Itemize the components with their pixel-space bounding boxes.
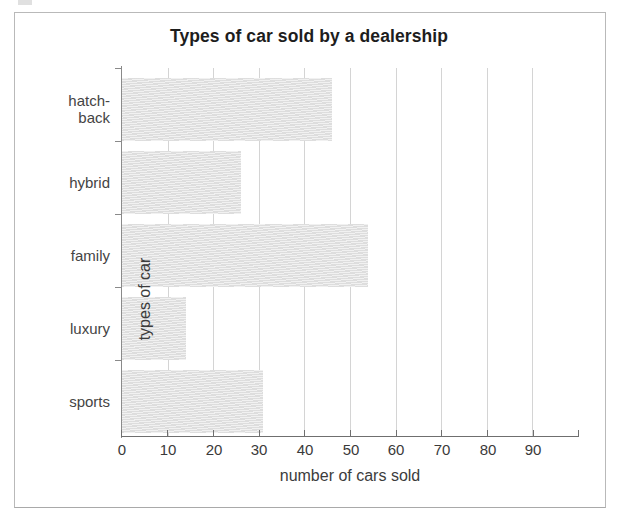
gridline-90 (532, 68, 533, 436)
y-label-luxury: luxury (70, 320, 110, 337)
x-tick-10 (167, 430, 168, 437)
y-tick-4 (115, 360, 122, 361)
y-tick-0 (115, 68, 122, 69)
y-label-sports: sports (69, 393, 110, 410)
y-tick-2 (115, 214, 122, 215)
x-tick-90 (533, 430, 534, 437)
x-tick-label-30: 30 (251, 441, 268, 458)
y-label-family: family (71, 247, 110, 264)
x-tick-label-90: 90 (525, 441, 542, 458)
x-tick-label-10: 10 (160, 441, 177, 458)
x-tick-70 (441, 430, 442, 437)
y-axis-title: types of car (136, 229, 154, 369)
x-tick-label-80: 80 (480, 441, 497, 458)
bar-family[interactable] (122, 224, 368, 287)
x-tick-40 (304, 430, 305, 437)
y-label-hatchback: hatch- back (68, 92, 110, 126)
x-tick-label-0: 0 (118, 441, 126, 458)
bar-hatchback[interactable] (122, 78, 332, 141)
x-tick-80 (487, 430, 488, 437)
gridline-60 (396, 68, 397, 436)
y-tick-1 (115, 141, 122, 142)
bar-hybrid[interactable] (122, 151, 241, 214)
x-tick-end (578, 430, 579, 437)
x-tick-label-50: 50 (343, 441, 360, 458)
x-tick-30 (259, 430, 260, 437)
gridline-70 (441, 68, 442, 436)
x-tick-60 (396, 430, 397, 437)
x-tick-label-20: 20 (206, 441, 223, 458)
y-category-labels: hatch- back hybrid family luxury sports (0, 0, 110, 516)
x-tick-0 (121, 430, 122, 437)
x-tick-20 (213, 430, 214, 437)
x-axis-title: number of cars sold (122, 467, 578, 485)
x-tick-50 (350, 430, 351, 437)
x-tick-label-40: 40 (297, 441, 314, 458)
bar-sports[interactable] (122, 370, 263, 433)
y-label-hybrid: hybrid (69, 174, 110, 191)
gridline-80 (487, 68, 488, 436)
x-tick-label-70: 70 (434, 441, 451, 458)
x-tick-label-60: 60 (388, 441, 405, 458)
y-tick-3 (115, 287, 122, 288)
plot-area: types of car (122, 68, 578, 436)
